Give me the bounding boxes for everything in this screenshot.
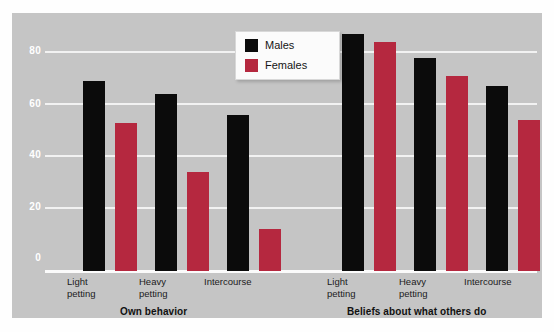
y-tick-80: 80 [29, 46, 41, 56]
chart-legend: Males Females [235, 31, 340, 80]
chart-panel: 80 60 40 20 0 [12, 13, 542, 318]
legend-label-females: Females [265, 58, 307, 72]
bar-own-heavy-females[interactable] [187, 172, 209, 271]
bar-own-heavy-males[interactable] [155, 94, 177, 271]
category-label-beliefs-light: Light petting [327, 276, 383, 299]
legend-label-males: Males [265, 38, 294, 52]
bar-beliefs-intercourse-females[interactable] [518, 120, 540, 271]
bar-own-light-females[interactable] [115, 123, 137, 271]
bar-beliefs-light-females[interactable] [374, 42, 396, 271]
category-label-own-heavy: Heavy petting [139, 276, 195, 299]
category-label-beliefs-heavy: Heavy petting [399, 276, 455, 299]
section-caption-own-behavior: Own behavior [120, 306, 187, 317]
y-tick-60: 60 [29, 99, 41, 109]
bar-beliefs-heavy-males[interactable] [414, 58, 436, 271]
y-tick-40: 40 [29, 150, 41, 160]
bar-own-light-males[interactable] [83, 81, 105, 271]
legend-swatch-males-icon [245, 39, 258, 52]
category-label-own-light: Light petting [67, 276, 123, 299]
bar-beliefs-intercourse-males[interactable] [486, 86, 508, 271]
bar-own-intercourse-females[interactable] [259, 229, 281, 271]
plot-area [45, 51, 537, 271]
category-label-own-intercourse: Intercourse [204, 276, 274, 288]
legend-swatch-females-icon [245, 59, 258, 72]
category-label-beliefs-intercourse: Intercourse [464, 276, 534, 288]
bar-beliefs-light-males[interactable] [342, 34, 364, 271]
chart-figure: 80 60 40 20 0 [0, 0, 554, 332]
y-axis-labels: 80 60 40 20 0 [12, 51, 41, 277]
y-tick-0: 0 [35, 253, 41, 263]
bar-beliefs-heavy-females[interactable] [446, 76, 468, 271]
y-tick-20: 20 [29, 202, 41, 212]
bar-own-intercourse-males[interactable] [227, 115, 249, 271]
section-caption-beliefs: Beliefs about what others do [347, 306, 486, 317]
